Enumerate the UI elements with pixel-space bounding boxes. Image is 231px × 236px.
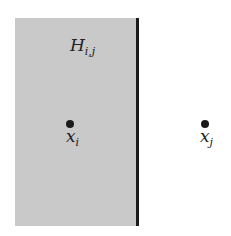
region-label-sub: i,j [85,45,95,58]
point-xi-label-main: x [66,126,76,146]
region-label: Hi,j [70,37,95,57]
region-label-main: H [70,35,85,55]
point-xi-label: xi [66,128,79,148]
point-xj-label-main: x [200,126,210,146]
point-xj-label-sub: j [210,136,213,149]
point-xi-label-sub: i [76,136,80,149]
bisector-boundary-line [136,18,139,226]
point-xj-label: xj [200,128,213,148]
